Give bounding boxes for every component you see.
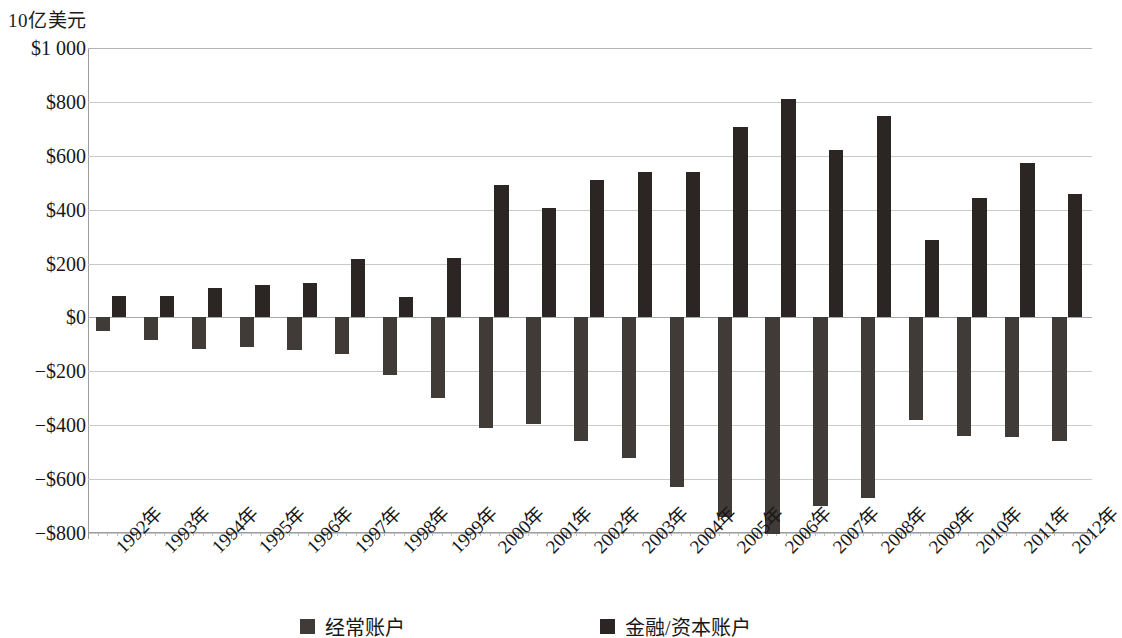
x-axis-minor-tick xyxy=(346,533,347,536)
y-axis-label: $200 xyxy=(0,252,86,275)
x-axis-minor-tick xyxy=(585,533,586,536)
unit-caption: 10亿美元 xyxy=(8,5,87,32)
bar xyxy=(670,317,684,487)
bar xyxy=(574,317,588,441)
bar xyxy=(542,208,556,317)
bar xyxy=(781,99,795,318)
bar xyxy=(686,172,700,318)
bar xyxy=(718,317,732,516)
y-axis-label: $400 xyxy=(0,198,86,221)
bar xyxy=(1005,317,1019,437)
bar xyxy=(877,116,891,318)
bar xyxy=(144,317,158,339)
bar xyxy=(479,317,493,427)
bar xyxy=(303,283,317,317)
x-axis-minor-tick xyxy=(442,533,443,536)
bar xyxy=(622,317,636,457)
bar xyxy=(255,285,269,317)
bar xyxy=(1052,317,1066,441)
gridline-600 xyxy=(88,156,1092,157)
legend-swatch-icon xyxy=(600,619,615,634)
y-axis-label: $600 xyxy=(0,144,86,167)
bar xyxy=(112,296,126,318)
gridline--600 xyxy=(88,479,1092,480)
bar xyxy=(1068,194,1082,317)
x-axis-minor-tick xyxy=(633,533,634,536)
x-axis-tick xyxy=(88,533,89,539)
y-axis-label: −$600 xyxy=(0,468,86,491)
gridline--400 xyxy=(88,425,1092,426)
bar xyxy=(399,297,413,317)
legend-entry-fa[interactable]: 金融/资本账户 xyxy=(600,612,751,638)
y-axis-label: $1 000 xyxy=(0,37,86,60)
x-axis-minor-tick xyxy=(968,533,969,536)
bar xyxy=(335,317,349,354)
bar xyxy=(240,317,254,347)
x-axis-minor-tick xyxy=(155,533,156,536)
legend-label: 经常账户 xyxy=(325,612,405,638)
bar xyxy=(733,127,747,317)
gridline--200 xyxy=(88,371,1092,372)
legend-label: 金融/资本账户 xyxy=(625,612,751,638)
bar xyxy=(287,317,301,349)
x-axis-minor-tick xyxy=(1063,533,1064,536)
y-axis-label: −$800 xyxy=(0,522,86,545)
x-axis-minor-tick xyxy=(251,533,252,536)
bar xyxy=(972,198,986,318)
bar xyxy=(208,288,222,318)
bar xyxy=(590,180,604,317)
y-axis-label: $800 xyxy=(0,90,86,113)
x-axis-minor-tick xyxy=(394,533,395,536)
bar xyxy=(925,240,939,318)
bar xyxy=(813,317,827,506)
x-axis-minor-tick xyxy=(203,533,204,536)
plot-area xyxy=(88,48,1092,533)
bar xyxy=(351,259,365,318)
x-axis-minor-tick xyxy=(872,533,873,536)
bar xyxy=(909,317,923,419)
y-axis-label: $0 xyxy=(0,306,86,329)
x-axis-minor-tick xyxy=(98,533,99,536)
y-axis-label: −$400 xyxy=(0,414,86,437)
x-axis-minor-tick xyxy=(824,533,825,536)
x-axis-minor-tick xyxy=(1016,533,1017,536)
x-axis-minor-tick xyxy=(298,533,299,536)
bar xyxy=(861,317,875,498)
legend-swatch-icon xyxy=(300,619,315,634)
bar xyxy=(494,185,508,317)
bar xyxy=(1020,163,1034,317)
x-axis-minor-tick xyxy=(681,533,682,536)
x-axis-minor-tick xyxy=(490,533,491,536)
chart-legend: 经常账户金融/资本账户 xyxy=(0,612,1100,638)
y-axis-label: −$200 xyxy=(0,360,86,383)
x-axis-minor-tick xyxy=(107,533,108,536)
bar xyxy=(957,317,971,436)
bar xyxy=(96,317,110,330)
bar xyxy=(829,150,843,318)
x-axis-minor-tick xyxy=(537,533,538,536)
bar xyxy=(431,317,445,398)
bar xyxy=(192,317,206,349)
bar xyxy=(526,317,540,423)
bar xyxy=(638,172,652,318)
bar xyxy=(383,317,397,375)
gridline-1000 xyxy=(88,48,1092,49)
x-axis-minor-tick xyxy=(729,533,730,536)
gridline-800 xyxy=(88,102,1092,103)
legend-entry-ca[interactable]: 经常账户 xyxy=(300,612,405,638)
y-axis-line xyxy=(88,48,89,533)
x-axis-minor-tick xyxy=(920,533,921,536)
bar xyxy=(447,258,461,318)
bar xyxy=(160,296,174,317)
